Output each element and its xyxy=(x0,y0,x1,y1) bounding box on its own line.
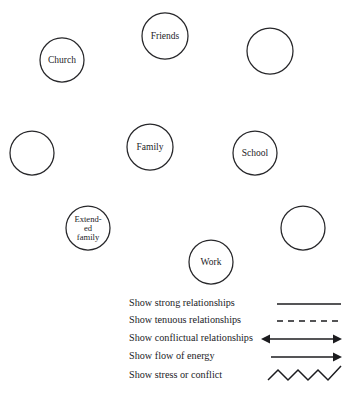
node-label: Church xyxy=(48,55,76,65)
node-extended-family[interactable]: Extend- ed family xyxy=(66,206,110,250)
legend-row-strong: Show strong relationships xyxy=(129,297,341,308)
node-label: Work xyxy=(201,257,222,267)
node-group: Church Friends Family School xyxy=(10,13,325,284)
node-empty-top-right[interactable] xyxy=(247,28,293,74)
legend: Show strong relationships Show tenuous r… xyxy=(129,297,342,380)
legend-row-tenuous: Show tenuous relationships xyxy=(129,314,341,325)
zigzag-line-icon xyxy=(268,366,341,380)
node-label: School xyxy=(242,148,269,158)
ecomap-diagram: Church Friends Family School xyxy=(0,0,345,396)
right-arrow-icon xyxy=(271,353,342,362)
node-school[interactable]: School xyxy=(233,131,277,175)
node-empty-bottom-right[interactable] xyxy=(281,206,325,250)
legend-row-energy: Show flow of energy xyxy=(129,350,342,361)
ecomap-canvas: Church Friends Family School xyxy=(0,0,345,396)
legend-label: Show tenuous relationships xyxy=(129,314,241,325)
node-work[interactable]: Work xyxy=(189,240,233,284)
node-circle[interactable] xyxy=(10,131,54,175)
node-circle[interactable] xyxy=(281,206,325,250)
legend-row-stress: Show stress or conflict xyxy=(129,366,341,380)
node-family[interactable]: Family xyxy=(127,124,173,170)
legend-label: Show strong relationships xyxy=(129,297,235,308)
node-label: Friends xyxy=(151,31,180,41)
node-empty-mid-left[interactable] xyxy=(10,131,54,175)
node-friends[interactable]: Friends xyxy=(142,13,188,59)
double-arrow-icon xyxy=(261,335,342,344)
legend-label: Show flow of energy xyxy=(129,350,215,361)
node-circle[interactable] xyxy=(247,28,293,74)
node-label: Family xyxy=(137,142,164,152)
legend-row-conflictual: Show conflictual relationships xyxy=(129,332,342,343)
legend-label: Show conflictual relationships xyxy=(129,332,253,343)
legend-label: Show stress or conflict xyxy=(129,369,222,380)
node-label-line-3: family xyxy=(77,232,100,242)
node-church[interactable]: Church xyxy=(40,38,84,82)
